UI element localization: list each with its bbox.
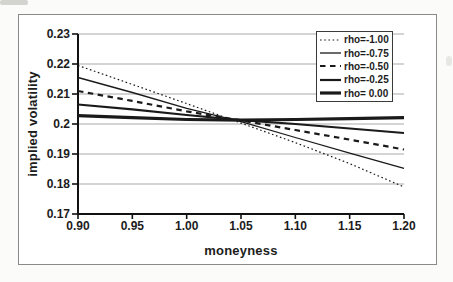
legend-label: rho= 0.00: [344, 88, 388, 99]
x-axis-title: moneyness: [204, 243, 277, 258]
x-tick-label: 1.20: [384, 219, 424, 233]
y-tick-label: 0.22: [30, 57, 70, 72]
x-tick-label: 0.90: [58, 219, 98, 233]
x-tick-label: 1.00: [167, 219, 207, 233]
x-tick-label: 1.10: [275, 219, 315, 233]
legend: rho=-1.00rho=-0.75rho=-0.50rho=-0.25rho=…: [316, 31, 393, 102]
legend-entry: rho=-1.00: [320, 33, 392, 46]
legend-entry: rho=-0.75: [320, 47, 392, 60]
x-tick-label: 0.95: [112, 219, 152, 233]
chart-frame: implied volatility moneyness 0.230.220.2…: [18, 14, 437, 265]
y-tick-label: 0.19: [30, 147, 70, 162]
legend-line-sample-solid-medium: [320, 74, 342, 86]
legend-label: rho=-0.25: [344, 74, 389, 85]
legend-label: rho=-1.00: [344, 34, 389, 45]
x-tick-label: 1.15: [330, 219, 370, 233]
scan-artifact-smudge: [446, 56, 452, 66]
y-tick-label: 0.18: [30, 177, 70, 192]
legend-label: rho=-0.75: [344, 48, 389, 59]
legend-entry: rho= 0.00: [320, 87, 392, 100]
legend-entry: rho=-0.25: [320, 73, 392, 86]
y-tick-label: 0.23: [30, 27, 70, 42]
legend-line-sample-dotted: [320, 34, 342, 46]
legend-line-sample-dashed: [320, 60, 342, 72]
legend-line-sample-solid-thick: [320, 87, 342, 99]
scanned-figure-page: implied volatility moneyness 0.230.220.2…: [0, 0, 453, 282]
legend-line-sample-solid-thin: [320, 47, 342, 59]
y-tick-label: 0.21: [30, 87, 70, 102]
y-tick-label: 0.2: [30, 117, 70, 132]
x-tick-label: 1.05: [221, 219, 261, 233]
scan-artifact-smudge: [0, 0, 28, 5]
legend-label: rho=-0.50: [344, 61, 389, 72]
series-line-solid-thick: [78, 116, 404, 121]
legend-entry: rho=-0.50: [320, 60, 392, 73]
